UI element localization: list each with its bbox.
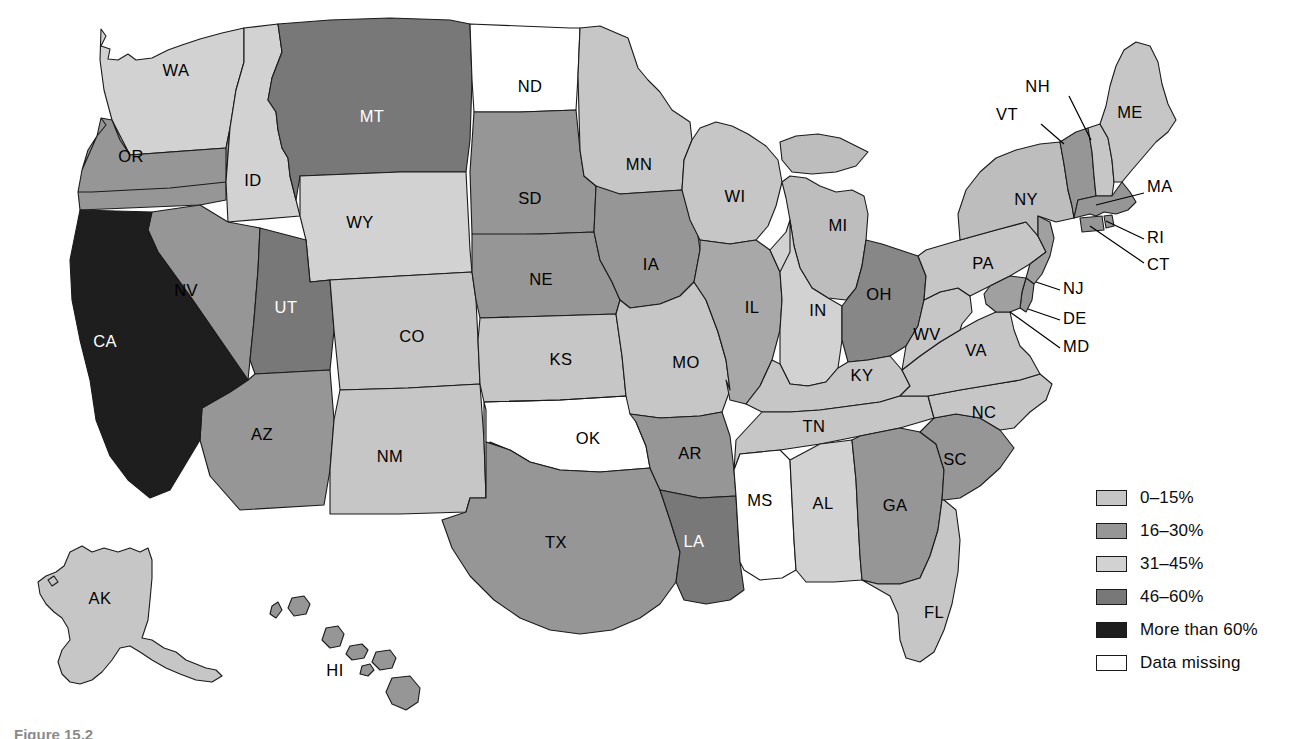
callout-label-md: MD [1063, 337, 1089, 355]
state-ak[interactable] [38, 546, 222, 684]
state-nd-shape[interactable] [470, 24, 580, 112]
state-label-hi: HI [326, 661, 343, 679]
legend-swatch-gt60 [1096, 622, 1127, 638]
state-hi-shape-5[interactable] [360, 664, 374, 676]
legend-row-0-15[interactable]: 0–15% [1096, 481, 1296, 514]
legend-row-missing[interactable]: Data missing [1096, 646, 1296, 679]
legend-row-31-45[interactable]: 31–45% [1096, 547, 1296, 580]
state-al[interactable] [790, 440, 862, 582]
state-hi-shape-2[interactable] [288, 596, 310, 616]
state-nd[interactable] [470, 24, 580, 112]
state-hi[interactable] [270, 596, 420, 710]
state-hi-shape-4[interactable] [346, 644, 368, 660]
figure-root: WAORCANVIDMTWYUTAZCONMNDSDNEKSOKTXMNIAMO… [0, 0, 1304, 739]
state-nm-shape[interactable] [330, 384, 486, 514]
state-ms-shape[interactable] [734, 450, 796, 580]
legend-label-31-45: 31–45% [1140, 554, 1204, 574]
state-ks-shape[interactable] [478, 314, 626, 402]
callout-label-ct: CT [1147, 255, 1170, 273]
state-wy-shape[interactable] [300, 172, 472, 282]
callout-label-nh: NH [1025, 77, 1050, 95]
state-ms[interactable] [734, 450, 796, 580]
callout-line-de [1028, 309, 1060, 320]
state-hi-shape[interactable] [270, 602, 282, 618]
legend-label-missing: Data missing [1140, 653, 1241, 673]
legend-row-gt60[interactable]: More than 60% [1096, 613, 1296, 646]
state-hi-shape-3[interactable] [322, 626, 344, 648]
map-legend: 0–15%16–30%31–45%46–60%More than 60%Data… [1096, 481, 1296, 679]
state-hi-shape-7[interactable] [386, 676, 420, 710]
callout-label-nj: NJ [1063, 279, 1084, 297]
callout-label-de: DE [1063, 309, 1087, 327]
legend-row-46-60[interactable]: 46–60% [1096, 580, 1296, 613]
figure-caption: Figure 15.2 [14, 726, 93, 739]
state-wy[interactable] [300, 172, 472, 282]
legend-label-gt60: More than 60% [1140, 620, 1258, 640]
state-al-shape[interactable] [790, 440, 862, 582]
state-ak-shape[interactable] [38, 546, 222, 684]
legend-swatch-missing [1096, 655, 1127, 671]
state-ct[interactable] [1080, 216, 1104, 232]
state-co-shape[interactable] [330, 272, 480, 390]
legend-row-16-30[interactable]: 16–30% [1096, 514, 1296, 547]
legend-swatch-0-15 [1096, 490, 1127, 506]
legend-label-16-30: 16–30% [1140, 521, 1204, 541]
callout-label-vt: VT [996, 105, 1018, 123]
callout-label-ma: MA [1147, 177, 1173, 195]
state-sd[interactable] [470, 110, 596, 236]
state-ks[interactable] [478, 314, 626, 402]
state-nm[interactable] [330, 384, 486, 514]
state-ri[interactable] [1104, 215, 1114, 228]
legend-swatch-16-30 [1096, 523, 1127, 539]
state-ri-shape[interactable] [1104, 215, 1114, 228]
legend-swatch-31-45 [1096, 556, 1127, 572]
state-hi-shape-6[interactable] [372, 650, 396, 670]
legend-label-0-15: 0–15% [1140, 488, 1194, 508]
callout-line-ct [1090, 226, 1144, 263]
state-sd-shape[interactable] [470, 110, 596, 236]
state-ct-shape[interactable] [1080, 216, 1104, 232]
legend-swatch-46-60 [1096, 589, 1127, 605]
callout-label-ri: RI [1147, 228, 1164, 246]
state-co[interactable] [330, 272, 480, 390]
legend-label-46-60: 46–60% [1140, 587, 1204, 607]
callout-line-ri [1106, 221, 1144, 239]
